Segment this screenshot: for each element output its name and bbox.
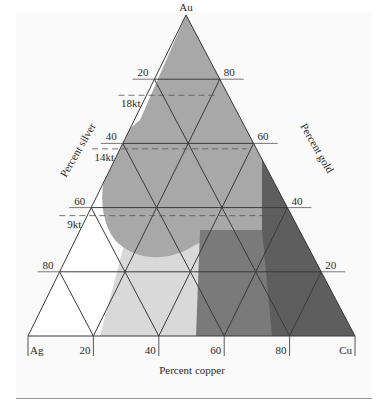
karat-label: 14kt [95, 151, 115, 163]
silver-tick-label: 20 [137, 66, 149, 78]
copper-tick-label: 40 [145, 344, 157, 356]
gold-tick-label: 40 [291, 195, 303, 207]
silver-tick-label: 80 [43, 259, 55, 271]
copper-tick-label: 60 [210, 344, 222, 356]
ternary-diagram: 18kt14kt9kt 204060808060402020406080 Au … [0, 0, 388, 400]
vertex-label-au: Au [179, 1, 193, 13]
vertex-label-cu: Cu [339, 344, 352, 356]
karat-label: 18kt [121, 97, 141, 109]
silver-tick-label: 60 [74, 195, 86, 207]
color-regions [28, 15, 355, 336]
gold-tick-label: 80 [224, 66, 236, 78]
copper-tick-label: 80 [276, 344, 288, 356]
karat-label: 9kt [67, 218, 81, 230]
axis-label-gold: Percent gold [298, 121, 336, 175]
axis-label-copper: Percent copper [159, 364, 225, 376]
vertex-label-ag: Ag [30, 344, 44, 356]
silver-tick-label: 40 [106, 130, 118, 142]
gold-tick-label: 60 [258, 130, 270, 142]
axis-label-silver: Percent silver [57, 121, 98, 179]
copper-tick-label: 20 [79, 344, 91, 356]
gold-tick-label: 20 [325, 259, 337, 271]
